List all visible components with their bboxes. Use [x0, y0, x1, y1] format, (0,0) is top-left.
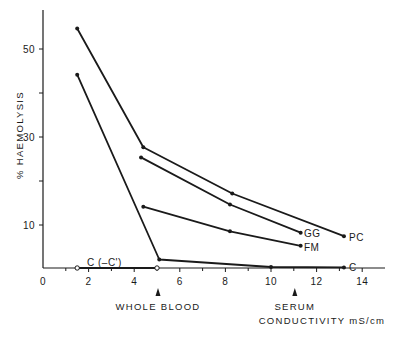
- filled-marker: [299, 244, 303, 248]
- x-tick-label: 8: [222, 276, 228, 287]
- y-tick-label: 10: [23, 220, 35, 231]
- whole-blood-label: WHOLE BLOOD: [115, 301, 200, 312]
- series-line-gg: [141, 157, 301, 232]
- haemolysis-chart: 10305002468101214 PCGGFMCC (–C')% HAEMOL…: [0, 0, 401, 340]
- axes: 10305002468101214: [23, 10, 385, 287]
- filled-marker: [230, 192, 234, 196]
- series-line-fm: [143, 207, 300, 246]
- open-marker: [75, 266, 79, 270]
- y-tick-label: 50: [23, 44, 35, 55]
- chart-labels: PCGGFMCC (–C')% HAEMOLYSISWHOLE BLOODSER…: [14, 91, 385, 326]
- filled-marker: [75, 27, 79, 31]
- x-tick-label: 10: [265, 276, 277, 287]
- filled-marker: [141, 145, 145, 149]
- serum-label: SERUM: [274, 301, 315, 312]
- series-label-c: C: [349, 262, 357, 273]
- filled-marker: [299, 231, 303, 235]
- filled-marker: [139, 155, 143, 159]
- arrow-up-icon: [156, 288, 161, 296]
- x-tick-label: 6: [177, 276, 183, 287]
- series-label-c-minus: C (–C'): [87, 257, 122, 268]
- series-label-gg: GG: [304, 228, 321, 239]
- x-tick-label: 14: [356, 276, 368, 287]
- x-tick-label: 0: [40, 276, 46, 287]
- filled-marker: [157, 258, 161, 262]
- open-marker: [155, 266, 159, 270]
- arrow-up-icon: [292, 288, 297, 296]
- series-label-fm: FM: [304, 242, 319, 253]
- x-axis-title: CONDUCTIVITY mS/cm: [259, 315, 386, 326]
- filled-marker: [141, 205, 145, 209]
- x-tick-label: 2: [86, 276, 92, 287]
- filled-marker: [269, 265, 273, 269]
- filled-marker: [228, 229, 232, 233]
- series-label-pc: PC: [349, 232, 364, 243]
- filled-marker: [342, 265, 346, 269]
- y-axis-title: % HAEMOLYSIS: [14, 91, 25, 179]
- series-line-pc: [77, 29, 344, 237]
- x-tick-label: 12: [311, 276, 323, 287]
- x-tick-label: 4: [131, 276, 137, 287]
- filled-marker: [342, 234, 346, 238]
- filled-marker: [75, 73, 79, 77]
- filled-marker: [228, 203, 232, 207]
